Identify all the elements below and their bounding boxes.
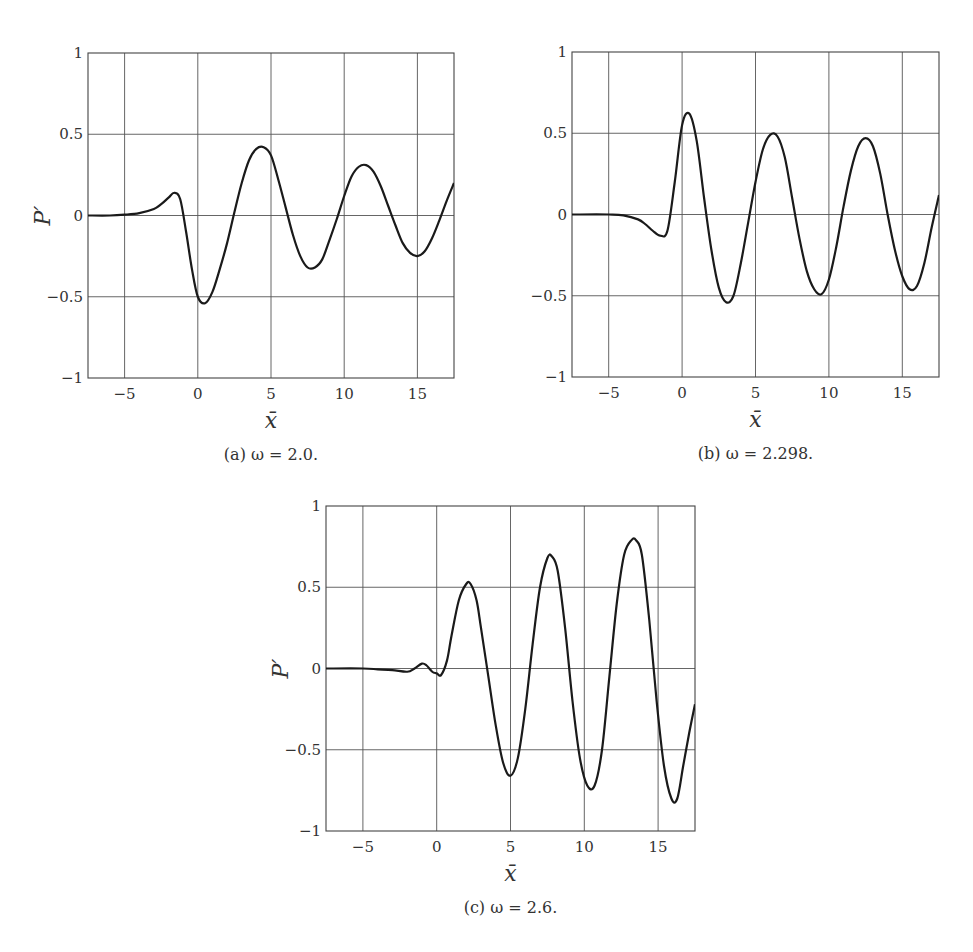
x-axis-label: x̄ [749, 407, 762, 432]
y-tick-label: 1 [557, 43, 567, 61]
x-tick-label: 5 [506, 838, 516, 856]
y-tick-label: 0.5 [297, 578, 321, 596]
x-tick-label: 10 [335, 385, 354, 403]
y-tick-label: 0.5 [59, 125, 83, 143]
x-tick-label: 5 [751, 384, 761, 402]
grid [572, 52, 939, 377]
x-tick-label: −5 [352, 838, 374, 856]
x-tick-label: 15 [893, 384, 912, 402]
x-axis-label: x̄ [265, 408, 278, 433]
y-tick-label: 0 [311, 660, 321, 678]
x-tick-label: −5 [114, 385, 136, 403]
x-tick-label: 0 [677, 384, 687, 402]
x-tick-label: 0 [193, 385, 203, 403]
y-tick-label: 0 [73, 207, 83, 225]
y-axis-label: P′ [30, 206, 55, 227]
y-tick-label: 0 [557, 206, 567, 224]
panel-caption: (b) ω = 2.298. [698, 444, 813, 463]
x-tick-label: −5 [598, 384, 620, 402]
y-tick-label: −0.5 [531, 287, 567, 305]
y-tick-label: −1 [299, 822, 321, 840]
x-tick-label: 10 [575, 838, 594, 856]
panel-caption: (a) ω = 2.0. [224, 445, 318, 464]
x-tick-label: 5 [266, 385, 276, 403]
x-tick-label: 15 [408, 385, 427, 403]
x-tick-label: 10 [819, 384, 838, 402]
panel-caption: (c) ω = 2.6. [464, 898, 558, 917]
grid [88, 53, 454, 378]
x-tick-label: 0 [432, 838, 442, 856]
y-tick-label: 1 [311, 497, 321, 515]
y-tick-label: −1 [545, 368, 567, 386]
panel-b: −505101510.50−0.5−1x̄(b) ω = 2.298. [531, 43, 939, 463]
y-tick-label: 1 [73, 44, 83, 62]
x-tick-label: 15 [649, 838, 668, 856]
y-axis-label: P′ [268, 659, 293, 680]
figure: −505101510.50−0.5−1x̄P′(a) ω = 2.0. −505… [0, 0, 973, 952]
y-tick-label: 0.5 [543, 124, 567, 142]
y-tick-label: −0.5 [285, 741, 321, 759]
y-tick-label: −1 [61, 369, 83, 387]
x-axis-label: x̄ [504, 861, 517, 886]
panel-c: −505101510.50−0.5−1x̄P′(c) ω = 2.6. [268, 497, 695, 917]
panel-a: −505101510.50−0.5−1x̄P′(a) ω = 2.0. [30, 44, 454, 464]
y-tick-label: −0.5 [47, 288, 83, 306]
